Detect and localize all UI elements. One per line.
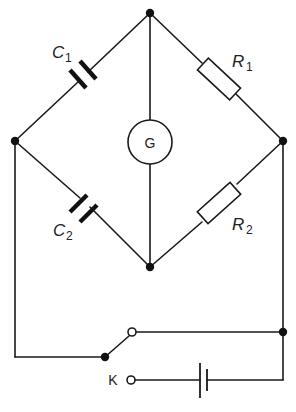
node-right-junction	[279, 328, 287, 336]
svg-text:R: R	[232, 52, 244, 71]
wire-c2-upper	[15, 141, 80, 198]
svg-text:2: 2	[66, 229, 73, 243]
wire-c1-lower	[15, 82, 78, 141]
svg-text:R: R	[232, 215, 244, 234]
label-r2: R 2	[232, 215, 253, 237]
svg-text:1: 1	[246, 60, 253, 74]
wire-r1-upper	[150, 13, 202, 63]
node-switch-pivot	[101, 353, 109, 361]
svg-text:C: C	[52, 43, 65, 62]
switch-lever[interactable]	[105, 336, 129, 357]
svg-text:1: 1	[65, 51, 72, 65]
svg-text:2: 2	[246, 223, 253, 237]
switch-contact-terminal	[128, 328, 136, 336]
wire-r2-lower	[150, 222, 202, 267]
battery-icon	[200, 363, 207, 398]
capacitor-c1-icon	[70, 61, 96, 88]
wire-r1-lower	[236, 94, 283, 141]
wire-c2-lower	[90, 207, 150, 267]
circuit-diagram: G K C 1 C 2 R 1 R 2	[0, 0, 296, 412]
label-c2: C 2	[53, 221, 73, 243]
label-r1: R 1	[232, 52, 253, 74]
node-right	[279, 137, 287, 145]
capacitor-c2-icon	[70, 195, 97, 222]
node-left	[11, 137, 19, 145]
label-c1: C 1	[52, 43, 72, 65]
node-top	[146, 9, 154, 17]
svg-text:C: C	[53, 221, 66, 240]
node-bottom	[146, 263, 154, 271]
switch-k-terminal	[127, 376, 135, 384]
wire-r2-upper	[237, 141, 283, 184]
galvanometer-label: G	[145, 135, 156, 151]
wire-c1-upper	[88, 13, 150, 72]
switch-label: K	[108, 372, 118, 388]
